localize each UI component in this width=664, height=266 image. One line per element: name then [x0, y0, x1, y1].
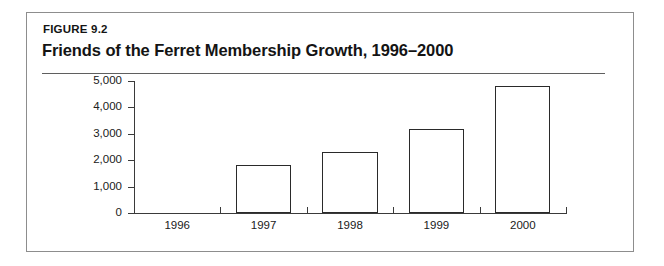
figure-title: Friends of the Ferret Membership Growth,… [42, 41, 453, 60]
x-axis-tick-label: 2000 [510, 219, 536, 231]
y-axis-tick-label: 2,000 [93, 154, 122, 166]
x-axis-tick [480, 207, 481, 214]
y-axis-tick-label: 3,000 [93, 128, 122, 140]
bar-2000 [495, 86, 550, 213]
x-axis-tick [220, 207, 221, 214]
bar-1998 [322, 152, 377, 213]
x-axis-tick-label: 1998 [337, 219, 363, 231]
y-axis-tick-label: 4,000 [93, 102, 122, 114]
figure-frame: FIGURE 9.2 Friends of the Ferret Members… [26, 12, 634, 252]
x-axis-tick [134, 207, 135, 214]
x-axis-tick-label: 1997 [251, 219, 277, 231]
bars-group [134, 81, 566, 214]
x-axis-tick [307, 207, 308, 214]
title-divider [42, 73, 605, 74]
x-axis-tick-label: 1999 [424, 219, 450, 231]
y-axis-tick-label: 0 [116, 207, 122, 219]
x-axis-tick [393, 207, 394, 214]
x-axis-tick-label: 1996 [164, 219, 190, 231]
y-axis-tick-label: 5,000 [93, 75, 122, 87]
x-axis-labels: 19961997199819992000 [134, 219, 566, 237]
bar-1999 [409, 129, 464, 213]
y-axis-labels: 01,0002,0003,0004,0005,000 [42, 81, 128, 213]
figure-number-label: FIGURE 9.2 [43, 23, 108, 35]
y-axis-tick-label: 1,000 [93, 181, 122, 193]
bar-chart: 01,0002,0003,0004,0005,000 1996199719981… [42, 81, 620, 243]
bar-1997 [236, 165, 291, 213]
x-axis-tick [566, 207, 567, 214]
